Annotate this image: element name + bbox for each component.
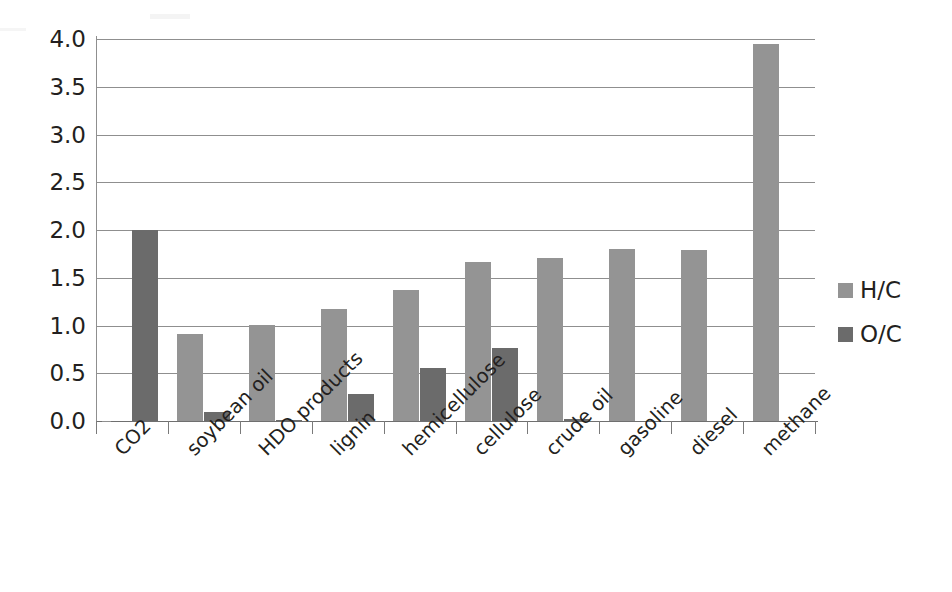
y-axis-tick-label: 0.0 (26, 410, 86, 433)
bar-group (681, 39, 734, 421)
x-axis-tick-mark (815, 421, 816, 434)
bar-group (393, 39, 446, 421)
scan-artifact (150, 14, 190, 19)
bar-h-c (753, 44, 779, 421)
bar-h-c (393, 290, 419, 421)
x-axis-tick-mark (743, 421, 744, 434)
legend-item: O/C (838, 312, 902, 356)
bar-group (105, 39, 158, 421)
x-axis-tick-mark (240, 421, 241, 434)
y-axis-ticks: 0.00.51.01.52.02.53.03.54.0 (14, 0, 86, 592)
chart-legend: H/CO/C (838, 268, 902, 356)
y-axis-tick-label: 4.0 (26, 28, 86, 51)
x-axis-tick-mark (96, 421, 97, 434)
legend-label: H/C (860, 279, 901, 302)
y-axis-tick-label: 2.0 (26, 219, 86, 242)
legend-label: O/C (860, 323, 902, 346)
x-axis-tick-mark (599, 421, 600, 434)
bar-group (249, 39, 302, 421)
y-axis-tick-label: 1.0 (26, 314, 86, 337)
x-axis-tick-mark (168, 421, 169, 434)
bar-chart: 0.00.51.01.52.02.53.03.54.0 CO2soybean o… (0, 0, 952, 592)
bar-group (753, 39, 806, 421)
y-axis-tick-label: 3.5 (26, 75, 86, 98)
y-axis-tick-label: 3.0 (26, 123, 86, 146)
bar-h-c (681, 250, 707, 421)
legend-item: H/C (838, 268, 902, 312)
bar-group (537, 39, 590, 421)
y-axis-tick-label: 2.5 (26, 171, 86, 194)
legend-swatch-icon (838, 283, 853, 298)
x-axis-tick-mark (527, 421, 528, 434)
bar-group (177, 39, 230, 421)
legend-swatch-icon (838, 327, 853, 342)
x-axis-tick-mark (456, 421, 457, 434)
x-axis-tick-mark (384, 421, 385, 434)
x-axis-tick-mark (671, 421, 672, 434)
plot-area (96, 39, 815, 421)
y-axis-tick-label: 0.5 (26, 362, 86, 385)
x-axis-tick-mark (312, 421, 313, 434)
bar-group (609, 39, 662, 421)
y-axis-tick-label: 1.5 (26, 266, 86, 289)
bar-o-c (132, 230, 158, 421)
bar-h-c (177, 334, 203, 421)
